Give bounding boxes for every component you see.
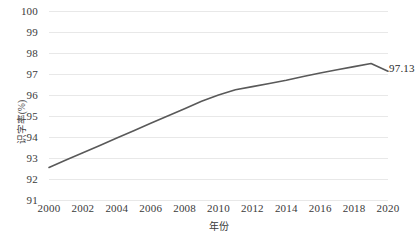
data-label-endpoint: 97.13 <box>389 62 415 74</box>
x-tick-label: 2012 <box>241 202 264 214</box>
y-tick-label: 92 <box>27 173 38 185</box>
y-axis-title: 识字率(%) <box>14 99 28 143</box>
gridline <box>49 200 388 201</box>
series-literacy-rate <box>49 11 388 200</box>
x-tick-label: 2014 <box>275 202 298 214</box>
y-tick-label: 91 <box>27 194 38 206</box>
x-axis-tick-labels: 2000200220042006200820102012201420162018… <box>49 202 388 218</box>
x-tick-label: 2016 <box>309 202 332 214</box>
y-tick-label: 94 <box>27 131 38 143</box>
x-axis-title: 年份 <box>49 218 388 233</box>
x-tick-label: 2008 <box>173 202 196 214</box>
y-tick-label: 93 <box>27 152 38 164</box>
y-tick-label: 99 <box>27 26 38 38</box>
x-tick-label: 2020 <box>377 202 400 214</box>
x-tick-label: 2006 <box>139 202 162 214</box>
plot-area <box>49 11 388 200</box>
y-tick-label: 98 <box>27 47 38 59</box>
x-tick-label: 2000 <box>38 202 61 214</box>
y-tick-label: 100 <box>21 5 38 17</box>
x-tick-label: 2018 <box>343 202 366 214</box>
y-tick-label: 95 <box>27 110 38 122</box>
literacy-rate-line-chart: 识字率(%) 100999897969594939291 20002002200… <box>0 0 420 243</box>
y-tick-label: 96 <box>27 89 38 101</box>
x-tick-label: 2010 <box>207 202 230 214</box>
x-tick-label: 2004 <box>105 202 128 214</box>
x-tick-label: 2002 <box>71 202 94 214</box>
y-tick-label: 97 <box>27 68 38 80</box>
